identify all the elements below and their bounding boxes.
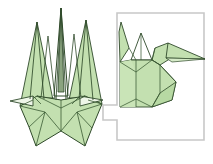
- origami-diagram-figure: Origami folding diagram Left: front view…: [0, 0, 213, 164]
- diagram-canvas: [0, 0, 213, 164]
